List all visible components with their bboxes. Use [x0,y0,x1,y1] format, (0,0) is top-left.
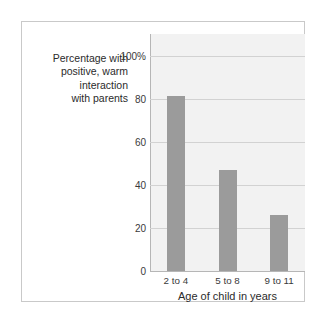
y-tick-label: 0 [102,266,146,277]
gridline [150,271,305,272]
y-tick-label: 40 [102,179,146,190]
bar [270,215,288,271]
x-axis-ticks: 2 to 45 to 89 to 11 [150,275,305,291]
chart-figure: Percentage with positive, warm interacti… [0,0,327,324]
y-axis-ticks: 020406080100% [101,34,146,271]
plot-area [150,34,305,271]
y-tick-label: 100% [102,50,146,61]
y-tick-label: 80 [102,93,146,104]
x-tick-label: 9 to 11 [252,275,306,286]
x-tick-label: 2 to 4 [149,275,203,286]
x-axis-title: Age of child in years [150,290,305,302]
x-tick-label: 5 to 8 [201,275,255,286]
bar [167,96,185,271]
y-tick-label: 20 [102,222,146,233]
y-tick-label: 60 [102,136,146,147]
gridline [150,56,305,57]
y-axis-line [150,34,151,271]
bar [219,170,237,271]
